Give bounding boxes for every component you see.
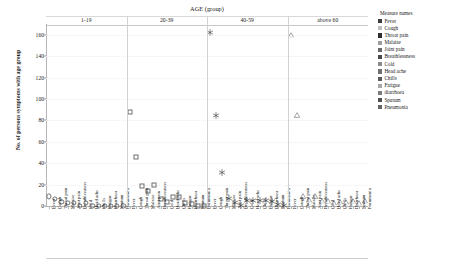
x-tick-mark xyxy=(222,206,223,209)
x-tick-mark xyxy=(117,206,118,209)
x-tick-mark xyxy=(241,206,242,209)
legend-swatch-icon xyxy=(378,69,382,73)
legend-item-label: Breathlessness xyxy=(384,53,415,60)
x-tick-mark xyxy=(204,206,205,209)
x-tick-mark xyxy=(179,206,180,209)
legend-item-head-ache[interactable]: Head ache xyxy=(378,68,448,75)
x-tick-mark xyxy=(322,206,323,209)
legend-swatch-icon xyxy=(378,84,382,88)
x-category-label: Breathlessness xyxy=(162,182,167,209)
x-tick-mark xyxy=(235,206,236,209)
x-tick-mark xyxy=(278,206,279,209)
legend-item-throat-pain[interactable]: Throat pain xyxy=(378,32,448,39)
x-tick-mark xyxy=(167,206,168,209)
legend-item-breathlessness[interactable]: Breathlessness xyxy=(378,53,448,60)
x-tick-mark xyxy=(284,206,285,209)
x-tick-mark xyxy=(61,206,62,209)
x-tick-mark xyxy=(161,206,162,209)
legend-item-list: FeverCoughThroat painMalaiseJoint painBr… xyxy=(378,18,448,111)
x-tick-mark xyxy=(340,206,341,209)
legend-item-label: Fever xyxy=(384,18,396,25)
x-tick-mark xyxy=(291,206,292,209)
x-tick-mark xyxy=(216,206,217,209)
legend-swatch-icon xyxy=(378,19,382,23)
x-tick-mark xyxy=(68,206,69,209)
x-tick-mark xyxy=(210,206,211,209)
x-tick-mark xyxy=(253,206,254,209)
legend-item-fatigue[interactable]: Fatigue xyxy=(378,82,448,89)
data-point-square xyxy=(127,109,132,114)
legend-item-pneumonia[interactable]: Pneumonia xyxy=(378,104,448,111)
legend-item-malaise[interactable]: Malaise xyxy=(378,39,448,46)
y-tick-label: 120 xyxy=(36,75,44,81)
x-tick-mark xyxy=(148,206,149,209)
legend-swatch-icon xyxy=(378,26,382,30)
legend-item-cold[interactable]: Cold xyxy=(378,61,448,68)
legend-item-label: Cough xyxy=(384,25,398,32)
x-tick-mark xyxy=(192,206,193,209)
x-category-label: Breathlessness xyxy=(323,182,328,209)
x-tick-mark xyxy=(198,206,199,209)
x-axis-category-labels: FeverCoughThroat painMalaiseJoint painBr… xyxy=(46,207,368,259)
x-tick-mark xyxy=(123,206,124,209)
x-tick-mark xyxy=(80,206,81,209)
legend-swatch-icon xyxy=(378,48,382,52)
x-tick-mark xyxy=(229,206,230,209)
x-tick-mark xyxy=(136,206,137,209)
legend-item-diarrhoea[interactable]: diarrhoea xyxy=(378,89,448,96)
legend-item-chills[interactable]: Chills xyxy=(378,75,448,82)
legend-swatch-icon xyxy=(378,33,382,37)
panel-divider xyxy=(288,16,289,206)
x-tick-mark xyxy=(74,206,75,209)
y-tick-label: 100 xyxy=(36,96,44,102)
data-point-triangle xyxy=(294,112,300,118)
legend-item-label: Chills xyxy=(384,75,396,82)
legend-item-fever[interactable]: Fever xyxy=(378,18,448,25)
legend-swatch-icon xyxy=(378,77,382,81)
legend-item-joint-pain[interactable]: Joint pain xyxy=(378,46,448,53)
legend-item-label: diarrhoea xyxy=(384,89,404,96)
x-tick-mark xyxy=(154,206,155,209)
x-category-label: Breathlessness xyxy=(82,182,87,209)
x-tick-mark xyxy=(303,206,304,209)
data-point-square xyxy=(133,154,138,159)
x-tick-mark xyxy=(272,206,273,209)
x-tick-mark xyxy=(353,206,354,209)
x-tick-mark xyxy=(266,206,267,209)
legend-item-label: Sputum xyxy=(384,97,400,104)
legend-item-cough[interactable]: Cough xyxy=(378,25,448,32)
data-point-asterisk xyxy=(219,162,226,180)
x-tick-mark xyxy=(309,206,310,209)
legend-swatch-icon xyxy=(378,41,382,45)
legend-item-sputum[interactable]: Sputum xyxy=(378,97,448,104)
x-tick-mark xyxy=(99,206,100,209)
legend-swatch-icon xyxy=(378,91,382,95)
y-axis-title: No. of persons symptoms with age group xyxy=(15,25,21,175)
x-tick-mark xyxy=(111,206,112,209)
x-tick-mark xyxy=(173,206,174,209)
x-tick-mark xyxy=(247,206,248,209)
legend: Measure names FeverCoughThroat painMalai… xyxy=(378,10,448,111)
chart-title: AGE (group) xyxy=(46,5,368,12)
x-tick-mark xyxy=(92,206,93,209)
legend-item-label: Fatigue xyxy=(384,82,400,89)
x-tick-mark xyxy=(142,206,143,209)
y-axis-ticks: 020406080100120140160 xyxy=(0,24,44,206)
x-tick-mark xyxy=(359,206,360,209)
chart-canvas: AGE (group) 1-1920-3940-59above 60 02040… xyxy=(0,0,450,273)
legend-swatch-icon xyxy=(378,105,382,109)
x-tick-mark xyxy=(49,206,50,209)
category-bottom-rule xyxy=(46,258,368,259)
x-tick-mark xyxy=(328,206,329,209)
y-tick-label: 160 xyxy=(36,32,44,38)
legend-item-label: Head ache xyxy=(384,68,406,75)
x-tick-mark xyxy=(86,206,87,209)
x-tick-mark xyxy=(365,206,366,209)
x-tick-mark xyxy=(297,206,298,209)
legend-swatch-icon xyxy=(378,62,382,66)
x-tick-mark xyxy=(105,206,106,209)
x-tick-mark xyxy=(346,206,347,209)
panel-divider xyxy=(127,16,128,206)
x-category-label: Pneumonia xyxy=(367,188,372,209)
legend-title: Measure names xyxy=(380,10,448,16)
